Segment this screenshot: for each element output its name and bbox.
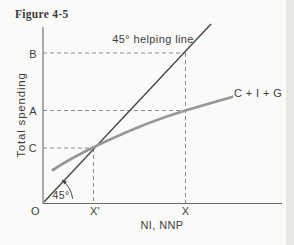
- angle-45-label: 45°: [52, 190, 69, 201]
- figure-container: Figure 4-5 B A C O X' X Total spending N…: [0, 0, 294, 245]
- helping-line-label: 45° helping line: [112, 34, 194, 45]
- x-tick-label-x: X: [182, 206, 190, 217]
- y-tick-label-b: B: [29, 49, 37, 60]
- x-axis-title: NI, NNP: [140, 220, 183, 231]
- y-axis-title: Total spending: [16, 72, 28, 157]
- y-tick-label-a: A: [29, 106, 37, 117]
- cig-curve: [53, 97, 232, 170]
- y-tick-label-c: C: [29, 143, 37, 154]
- cig-line-label: C + I + G: [234, 88, 282, 99]
- origin-label: O: [31, 206, 40, 217]
- x-tick-label-xprime: X': [90, 206, 100, 217]
